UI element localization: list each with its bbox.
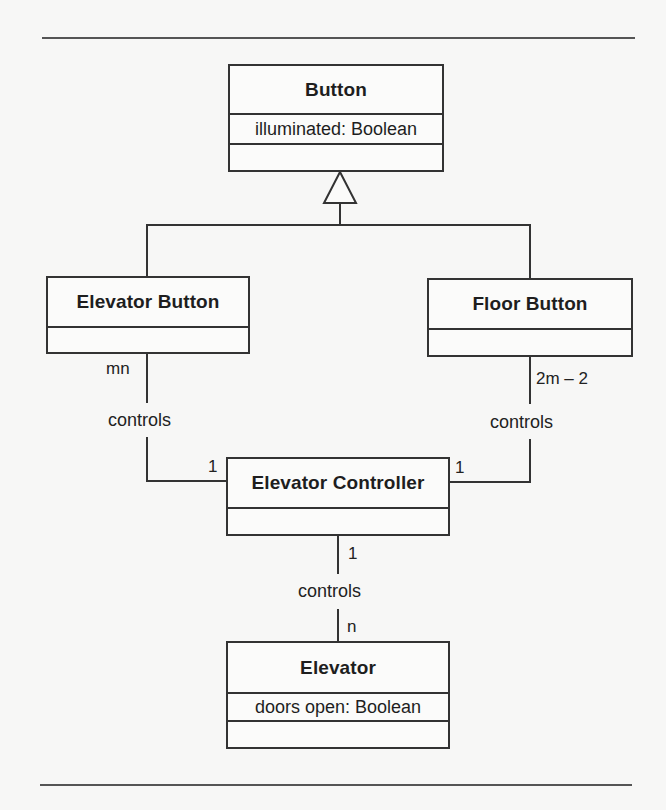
multiplicity-label: 1: [455, 459, 464, 476]
class-name: Elevator Controller: [228, 459, 448, 509]
association-label: controls: [298, 582, 361, 600]
generalization-stem: [339, 203, 341, 226]
association-line: [337, 535, 339, 574]
class-elevator-controller: Elevator Controller: [226, 457, 450, 536]
multiplicity-label: mn: [106, 360, 130, 377]
association-label: controls: [108, 411, 171, 429]
generalization-bar: [146, 224, 531, 226]
class-operations: [230, 145, 442, 170]
class-attribute: illuminated: Boolean: [230, 115, 442, 145]
multiplicity-label: 1: [348, 545, 357, 562]
class-button: Button illuminated: Boolean: [228, 64, 444, 172]
generalization-left-branch: [146, 224, 148, 277]
association-line: [146, 354, 148, 403]
generalization-right-branch: [529, 224, 531, 279]
top-rule: [42, 37, 635, 39]
class-name: Button: [230, 66, 442, 115]
class-elevator-button: Elevator Button: [46, 276, 250, 354]
class-name: Elevator: [228, 643, 448, 694]
class-attribute: doors open: Boolean: [228, 694, 448, 722]
class-operations: [228, 509, 448, 534]
association-label: controls: [490, 413, 553, 431]
class-floor-button: Floor Button: [427, 278, 633, 357]
multiplicity-label: 1: [208, 458, 217, 475]
generalization-arrow-icon: [322, 171, 358, 205]
association-line: [448, 481, 531, 483]
association-line: [529, 357, 531, 404]
association-line: [337, 609, 339, 642]
association-line: [529, 439, 531, 483]
multiplicity-label: 2m – 2: [536, 370, 588, 387]
class-operations: [429, 330, 631, 355]
class-name: Elevator Button: [48, 278, 248, 328]
bottom-rule: [40, 784, 632, 786]
multiplicity-label: n: [347, 618, 356, 635]
class-operations: [48, 328, 248, 352]
class-operations: [228, 722, 448, 747]
association-line: [146, 480, 227, 482]
class-elevator: Elevator doors open: Boolean: [226, 641, 450, 749]
association-line: [146, 437, 148, 482]
class-name: Floor Button: [429, 280, 631, 330]
